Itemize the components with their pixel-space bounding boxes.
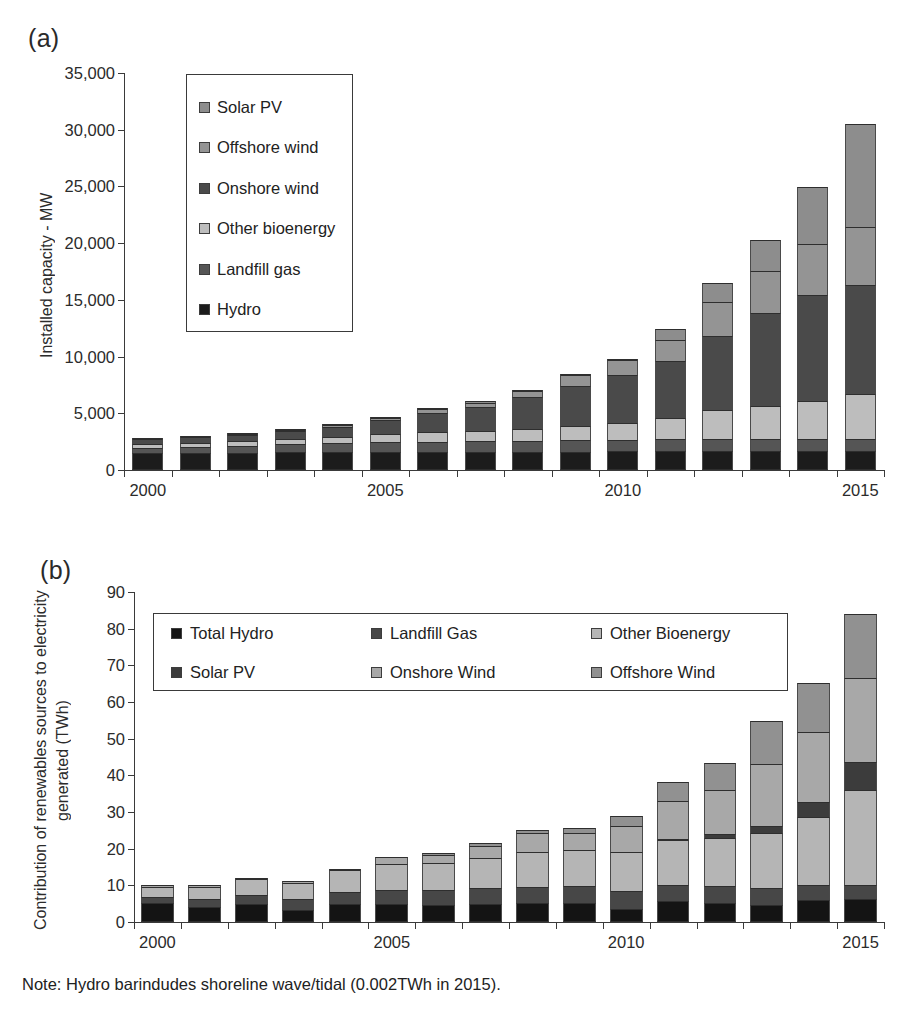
bar-2006[interactable]	[422, 853, 455, 922]
legend-item-other-bioenergy[interactable]: Other bioenergy	[199, 209, 352, 250]
y-tick-label: 20,000	[65, 234, 124, 253]
y-tick-mark	[118, 130, 124, 131]
bar-segment	[512, 391, 543, 398]
bar-segment	[657, 840, 690, 885]
y-tick-mark	[118, 73, 124, 74]
bar-2009[interactable]	[563, 828, 596, 922]
bar-segment	[655, 439, 686, 451]
legend-item-offshore-wind[interactable]: Offshore wind	[199, 128, 352, 169]
x-tick-mark	[743, 922, 744, 929]
bar-segment	[704, 838, 737, 886]
bar-2003[interactable]	[275, 430, 306, 470]
legend-item-total-hydro[interactable]: Total Hydro	[171, 624, 371, 643]
bar-segment	[797, 732, 830, 802]
bar-segment	[465, 401, 496, 402]
bar-segment	[607, 440, 638, 452]
bar-segment	[844, 899, 877, 922]
bar-2011[interactable]	[655, 329, 686, 470]
bar-segment	[422, 853, 455, 854]
y-tick-mark	[118, 186, 124, 187]
bar-segment	[844, 614, 877, 678]
bar-2015[interactable]	[844, 614, 877, 922]
bar-segment	[227, 435, 258, 441]
bar-2000[interactable]	[141, 885, 174, 922]
bar-2003[interactable]	[282, 881, 315, 922]
bar-segment	[844, 885, 877, 899]
bar-2011[interactable]	[657, 782, 690, 922]
x-tick-label: 2010	[608, 933, 645, 952]
bar-2010[interactable]	[610, 816, 643, 922]
bar-segment	[469, 843, 502, 846]
bar-2013[interactable]	[750, 240, 781, 470]
bar-segment	[704, 763, 737, 791]
legend-item-landfill-gas[interactable]: Landfill gas	[199, 249, 352, 290]
bar-segment	[132, 439, 163, 444]
legend-label-offshore-wind: Offshore Wind	[610, 663, 715, 682]
bar-segment	[329, 892, 362, 904]
bar-segment	[422, 863, 455, 890]
legend-item-hydro[interactable]: Hydro	[199, 290, 352, 331]
bar-2002[interactable]	[227, 434, 258, 470]
bar-2005[interactable]	[375, 857, 408, 922]
x-tick-mark	[409, 470, 410, 477]
bar-segment	[657, 801, 690, 840]
legend-label-offshore-wind: Offshore wind	[217, 138, 319, 157]
bar-2009[interactable]	[560, 375, 591, 471]
y-tick-mark	[128, 812, 134, 813]
bar-2008[interactable]	[512, 390, 543, 470]
bar-2012[interactable]	[702, 283, 733, 470]
bar-segment	[469, 858, 502, 887]
legend-label-landfill-gas: Landfill Gas	[390, 624, 477, 643]
bar-2004[interactable]	[329, 870, 362, 922]
bar-2007[interactable]	[469, 843, 502, 922]
legend-item-solar-pv[interactable]: Solar PV	[199, 87, 352, 128]
bar-2002[interactable]	[235, 878, 268, 922]
legend-label-other-bioenergy: Other bioenergy	[217, 219, 335, 238]
bar-2014[interactable]	[797, 683, 830, 922]
bar-segment	[188, 899, 221, 907]
legend-swatch-landfill-gas	[199, 264, 210, 275]
y-tick-mark	[128, 665, 134, 666]
bar-2007[interactable]	[465, 402, 496, 470]
y-tick-mark	[128, 739, 134, 740]
bar-segment	[702, 410, 733, 439]
bar-2012[interactable]	[704, 763, 737, 923]
bar-2014[interactable]	[797, 187, 828, 470]
legend-item-onshore-wind[interactable]: Onshore Wind	[371, 663, 591, 682]
bar-segment	[845, 439, 876, 451]
legend-swatch-hydro	[199, 304, 210, 315]
bar-segment	[702, 283, 733, 302]
bar-2010[interactable]	[607, 359, 638, 470]
legend-item-other-bioenergy[interactable]: Other Bioenergy	[591, 624, 787, 643]
y-tick-mark	[128, 849, 134, 850]
bar-2013[interactable]	[750, 721, 783, 922]
bar-segment	[370, 418, 401, 420]
x-tick-mark	[603, 922, 604, 929]
bar-segment	[845, 451, 876, 470]
x-tick-mark	[697, 922, 698, 929]
y-tick-label: 35,000	[65, 64, 124, 83]
legend-item-onshore-wind[interactable]: Onshore wind	[199, 168, 352, 209]
bar-2015[interactable]	[845, 124, 876, 470]
bar-2005[interactable]	[370, 418, 401, 470]
bar-2000[interactable]	[132, 439, 163, 470]
bar-segment	[560, 426, 591, 440]
bar-2006[interactable]	[417, 409, 448, 470]
x-tick-mark	[181, 922, 182, 929]
chart-a-legend: Solar PV Offshore wind Onshore wind Othe…	[186, 74, 353, 332]
bar-2001[interactable]	[180, 437, 211, 470]
bar-segment	[655, 329, 686, 340]
bar-segment	[797, 817, 830, 885]
legend-item-solar-pv[interactable]: Solar PV	[171, 663, 371, 682]
bar-2001[interactable]	[188, 885, 221, 922]
bar-2008[interactable]	[516, 830, 549, 922]
bar-2004[interactable]	[322, 425, 353, 470]
bar-segment	[560, 440, 591, 452]
legend-item-offshore-wind[interactable]: Offshore Wind	[591, 663, 787, 682]
bar-segment	[329, 904, 362, 922]
x-tick-mark	[504, 470, 505, 477]
x-tick-mark	[457, 470, 458, 477]
panel-a-label: (a)	[28, 24, 59, 53]
bar-segment	[607, 359, 638, 360]
legend-item-landfill-gas[interactable]: Landfill Gas	[371, 624, 591, 643]
